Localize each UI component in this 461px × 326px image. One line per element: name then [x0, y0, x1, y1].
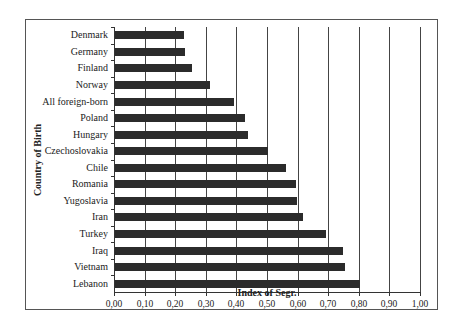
x-tick-label: 1,00 [412, 299, 429, 309]
bar-yugoslavia [115, 197, 297, 205]
x-tick [175, 292, 176, 296]
bar-iran [115, 213, 303, 221]
y-axis-title: Country of Birth [32, 124, 43, 196]
x-tick-label: 0,80 [351, 299, 368, 309]
category-label: Iraq [92, 245, 108, 257]
y-tick [111, 275, 114, 276]
gridline [420, 27, 421, 292]
y-tick [111, 60, 114, 61]
gridline [389, 27, 390, 292]
category-label: Turkey [79, 228, 108, 240]
y-tick [111, 242, 114, 243]
x-tick-label: 0,60 [290, 299, 307, 309]
x-tick-label: 0,70 [320, 299, 337, 309]
x-axis-title: Index of Segr. [238, 287, 297, 298]
x-tick [328, 292, 329, 296]
bar-poland [115, 114, 245, 122]
x-tick-label: 0,00 [106, 299, 123, 309]
x-tick [145, 292, 146, 296]
y-tick [111, 77, 114, 78]
y-tick [111, 176, 114, 177]
x-tick [114, 292, 115, 296]
bar-vietnam [115, 263, 345, 271]
x-tick-label: 0,10 [137, 299, 154, 309]
x-tick [206, 292, 207, 296]
x-tick [420, 292, 421, 296]
bar-romania [115, 180, 296, 188]
category-label: Chile [86, 162, 108, 174]
x-tick-label: 0,40 [228, 299, 245, 309]
x-tick [389, 292, 390, 296]
category-label: Lebanon [73, 278, 108, 290]
bar-finland [115, 64, 192, 72]
bar-denmark [115, 31, 184, 39]
bar-chile [115, 164, 286, 172]
x-tick-label: 0,90 [381, 299, 398, 309]
category-label: Poland [80, 112, 108, 124]
x-tick-label: 0,20 [167, 299, 184, 309]
category-label: Finland [77, 62, 108, 74]
plot-area: 0,000,100,200,300,400,500,600,700,800,90… [114, 27, 420, 292]
y-tick [111, 143, 114, 144]
y-tick [111, 226, 114, 227]
y-tick [111, 110, 114, 111]
y-tick [111, 160, 114, 161]
bar-germany [115, 48, 185, 56]
bar-iraq [115, 247, 343, 255]
x-tick-label: 0,30 [198, 299, 215, 309]
category-label: All foreign-born [42, 96, 108, 108]
category-label: Norway [76, 79, 108, 91]
bar-czechoslovakia [115, 147, 268, 155]
bar-hungary [115, 131, 248, 139]
gridline [359, 27, 360, 292]
y-tick [111, 44, 114, 45]
y-tick [111, 209, 114, 210]
category-label: Iran [92, 211, 108, 223]
y-tick [111, 126, 114, 127]
category-label: Yugoslavia [64, 195, 108, 207]
category-label: Hungary [73, 129, 108, 141]
category-label: Denmark [71, 29, 108, 41]
x-tick [298, 292, 299, 296]
category-label: Czechoslovakia [45, 145, 108, 157]
category-label: Germany [71, 46, 108, 58]
bar-norway [115, 81, 210, 89]
y-tick [111, 259, 114, 260]
x-tick [359, 292, 360, 296]
y-tick [111, 93, 114, 94]
y-tick [111, 193, 114, 194]
bar-turkey [115, 230, 326, 238]
bar-all-foreign-born [115, 98, 234, 106]
category-label: Romania [72, 178, 108, 190]
x-tick-label: 0,50 [259, 299, 276, 309]
y-tick [111, 27, 114, 28]
category-label: Vietnam [74, 261, 108, 273]
